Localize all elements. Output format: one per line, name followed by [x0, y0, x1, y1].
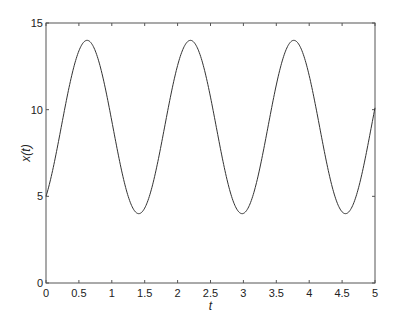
- y-tick-label: 10: [31, 104, 43, 116]
- x-tick-label: 4: [306, 287, 312, 299]
- axis-ticks: [46, 23, 375, 283]
- data-line-x-of-t: [46, 40, 375, 213]
- x-tick-label: 3.5: [269, 287, 284, 299]
- x-tick-label: 2: [175, 287, 181, 299]
- x-tick-label: 5: [372, 287, 378, 299]
- chart: 00.511.522.533.544.55051015 t x(t): [0, 0, 397, 319]
- y-axis-label: x(t): [19, 144, 33, 162]
- y-tick-label: 5: [37, 190, 43, 202]
- x-tick-label: 0.5: [71, 287, 86, 299]
- x-axis-label: t: [209, 299, 213, 313]
- x-tick-label: 3: [240, 287, 246, 299]
- x-tick-label: 1.5: [137, 287, 152, 299]
- x-tick-label: 4.5: [334, 287, 349, 299]
- x-tick-label: 2.5: [203, 287, 218, 299]
- x-tick-label: 0: [43, 287, 49, 299]
- y-tick-label: 15: [31, 17, 43, 29]
- x-tick-label: 1: [109, 287, 115, 299]
- plot-frame: [46, 23, 375, 283]
- y-tick-label: 0: [37, 277, 43, 289]
